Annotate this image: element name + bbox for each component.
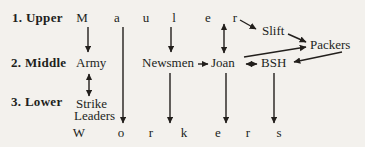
- node-strike-leaders-line2: Leaders: [74, 109, 115, 122]
- level-label-lower: 3. Lower: [11, 95, 63, 108]
- arrow-packers-to-bsh: [294, 52, 342, 62]
- node-slift: Slift: [262, 24, 284, 37]
- mauler-letter-a: a: [114, 11, 120, 24]
- mauler-letter-e: e: [205, 11, 211, 24]
- level-label-middle: 2. Middle: [11, 56, 66, 69]
- arrow-slift-to-packers: [288, 34, 306, 42]
- level-label-upper: 1. Upper: [12, 11, 63, 24]
- mauler-letter-m: M: [76, 11, 88, 24]
- workers-letter-r2: r: [246, 126, 250, 139]
- arrow-mauler-r-to-slift: [240, 20, 256, 29]
- workers-letter-w: W: [73, 126, 85, 139]
- mauler-letter-u: u: [143, 11, 150, 24]
- workers-letter-e: e: [215, 126, 221, 139]
- mauler-letter-r: r: [233, 11, 237, 24]
- node-joan: Joan: [211, 56, 235, 69]
- node-newsmen: Newsmen: [142, 56, 194, 69]
- workers-letter-r: r: [149, 126, 153, 139]
- hierarchy-diagram: 1. Upper 2. Middle 3. Lower M a u l e r …: [0, 0, 365, 147]
- workers-letter-k: k: [181, 126, 188, 139]
- mauler-letter-l: l: [172, 11, 176, 24]
- node-packers: Packers: [310, 38, 350, 51]
- node-bsh: BSH: [261, 56, 286, 69]
- workers-letter-s: s: [276, 126, 281, 139]
- workers-letter-o: o: [118, 126, 125, 139]
- node-army: Army: [76, 56, 106, 69]
